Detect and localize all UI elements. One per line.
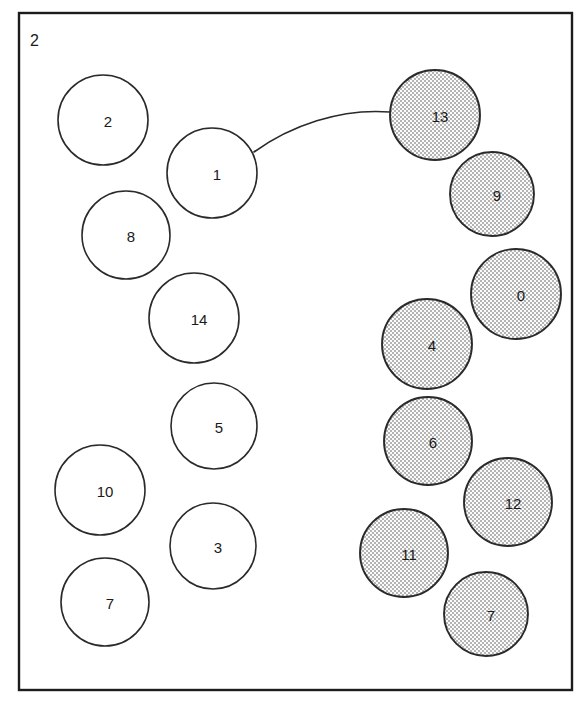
node-label: 2 xyxy=(104,113,112,130)
node-label: 4 xyxy=(428,337,436,354)
node-8-open[interactable]: 8 xyxy=(82,191,170,279)
node-label: 7 xyxy=(106,595,114,612)
node-11-shaded[interactable]: 11 xyxy=(360,509,448,597)
node-4-shaded[interactable]: 4 xyxy=(382,299,472,389)
node-5-open[interactable]: 5 xyxy=(171,383,257,469)
edge-n1-to-n13 xyxy=(254,111,390,152)
node-label: 7 xyxy=(487,607,495,624)
edges-layer xyxy=(254,111,390,152)
node-label: 5 xyxy=(215,419,223,436)
circle-diagram-canvas: 2 218145103713904612117 xyxy=(0,0,584,707)
node-label: 0 xyxy=(517,287,525,304)
node-label: 12 xyxy=(505,495,522,512)
node-6-shaded[interactable]: 6 xyxy=(384,397,472,485)
node-10-open[interactable]: 10 xyxy=(55,445,145,535)
node-label: 6 xyxy=(429,434,437,451)
nodes-layer: 218145103713904612117 xyxy=(55,70,561,656)
node-14-open[interactable]: 14 xyxy=(149,273,239,363)
node-13-shaded[interactable]: 13 xyxy=(390,70,480,160)
node-9-shaded[interactable]: 9 xyxy=(450,152,534,236)
node-label: 8 xyxy=(127,228,135,245)
node-label: 14 xyxy=(191,311,208,328)
figure-panel: 2 218145103713904612117 xyxy=(0,0,584,707)
node-label: 3 xyxy=(214,539,222,556)
node-7-open[interactable]: 7 xyxy=(61,558,149,646)
node-0-shaded[interactable]: 0 xyxy=(471,249,561,339)
node-label: 9 xyxy=(493,187,501,204)
node-12-shaded[interactable]: 12 xyxy=(464,458,552,546)
node-label: 1 xyxy=(213,166,221,183)
panel-label: 2 xyxy=(30,32,39,49)
node-label: 11 xyxy=(401,546,417,563)
node-label: 10 xyxy=(97,483,114,500)
node-1-open[interactable]: 1 xyxy=(167,128,257,218)
node-2-open[interactable]: 2 xyxy=(58,75,148,165)
node-3-open[interactable]: 3 xyxy=(170,503,256,589)
node-7-shaded[interactable]: 7 xyxy=(444,572,528,656)
node-label: 13 xyxy=(432,108,449,125)
